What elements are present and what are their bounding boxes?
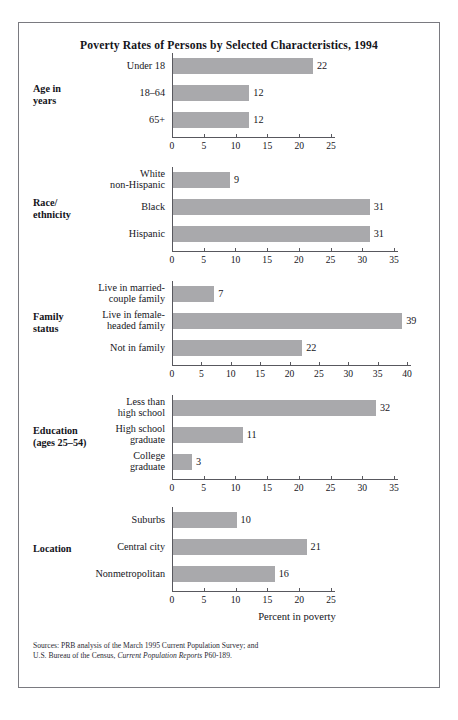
category-label: 65+ [29,114,165,126]
x-axis-tick [267,134,268,138]
x-axis-tick [299,134,300,138]
category-label: Nonmetropolitan [29,568,165,580]
bar-value-label: 9 [234,174,239,185]
category-label: Collegegraduate [29,450,165,473]
category-label: Live in female-headed family [29,309,165,332]
x-axis-tick-label: 0 [161,140,183,151]
bar-value-label: 7 [218,288,223,299]
x-axis-tick-label: 5 [193,140,215,151]
bar [173,512,237,528]
x-axis-tick [204,134,205,138]
bar-value-label: 32 [380,402,390,413]
x-axis-tick-label: 30 [337,368,359,379]
x-axis-tick-label: 10 [224,254,246,265]
bar [173,427,243,443]
figure-frame: Poverty Rates of Persons by Selected Cha… [18,22,440,688]
x-axis-line [172,479,398,480]
x-axis-tick [394,476,395,480]
x-axis-tick [260,362,261,366]
x-axis-tick [172,588,173,592]
x-axis-line [172,251,398,252]
category-label: Suburbs [29,514,165,526]
x-axis-tick-label: 0 [161,482,183,493]
category-label-line: couple family [29,293,165,305]
x-axis-tick-label: 5 [193,254,215,265]
x-axis-tick-label: 30 [351,254,373,265]
category-label-line: 18–64 [29,87,165,99]
x-axis-line [172,365,411,366]
x-axis-tick-label: 5 [193,594,215,605]
chart-title: Poverty Rates of Persons by Selected Cha… [19,39,439,52]
x-axis-tick-label: 15 [256,482,278,493]
x-axis-tick [204,248,205,252]
category-label-line: Under 18 [29,60,165,72]
x-axis-tick-label: 15 [249,368,271,379]
category-label-line: non-Hispanic [29,179,165,191]
x-axis-tick-label: 10 [220,368,242,379]
x-axis-tick [235,248,236,252]
sources-report-title: Current Population Reports [117,651,202,660]
x-axis-tick [348,362,349,366]
x-axis-tick [236,134,237,138]
x-axis-tick-label: 10 [225,140,247,151]
x-axis-tick-label: 10 [225,594,247,605]
category-label: Live in married-couple family [29,282,165,305]
x-axis-tick [267,588,268,592]
x-axis-tick [204,588,205,592]
x-axis-tick-label: 35 [367,368,389,379]
x-axis-tick [378,362,379,366]
x-axis-tick-label: 0 [161,254,183,265]
plot-area: 2212120510152025 [172,53,337,139]
bar [173,58,313,74]
x-axis-tick-label: 15 [256,140,278,151]
bar-value-label: 12 [253,114,263,125]
sources-line-2-pre: U.S. Bureau of the Census, [33,651,117,660]
bar-value-label: 31 [374,228,384,239]
category-label-line: high school [29,407,165,419]
category-label-line: College [29,450,165,462]
category-label-line: Black [29,201,165,213]
bar [173,112,249,128]
x-axis-tick [290,362,291,366]
category-label: Not in family [29,342,165,354]
category-label: Central city [29,541,165,553]
x-axis-tick [204,476,205,480]
x-axis-tick-label: 20 [288,594,310,605]
bar-value-label: 16 [279,568,289,579]
x-axis-tick [331,588,332,592]
x-axis-tick [172,362,173,366]
x-axis-tick-label: 5 [190,368,212,379]
x-axis-tick-label: 35 [383,254,405,265]
x-axis-tick [299,476,300,480]
x-axis-tick [319,362,320,366]
x-axis-tick [172,476,173,480]
bar [173,199,370,215]
category-label: Hispanic [29,228,165,240]
sources-note: Sources: PRB analysis of the March 1995 … [33,641,423,662]
category-label-line: Hispanic [29,228,165,240]
bar [173,226,370,242]
x-axis-tick [231,362,232,366]
category-label-line: Suburbs [29,514,165,526]
bar-value-label: 10 [241,514,251,525]
x-axis-tick-label: 35 [383,482,405,493]
x-axis-tick-label: 25 [320,254,342,265]
bar-value-label: 3 [196,456,201,467]
x-axis-tick-label: 15 [256,254,278,265]
category-label-line: Central city [29,541,165,553]
plot-area: 739220510152025303540 [172,281,413,367]
x-axis-tick [235,476,236,480]
bar [173,172,230,188]
bar [173,85,249,101]
category-label: Black [29,201,165,213]
x-axis-tick-label: 25 [308,368,330,379]
category-label: 18–64 [29,87,165,99]
category-label: Less thanhigh school [29,396,165,419]
category-label-line: White [29,168,165,180]
category-label: Under 18 [29,60,165,72]
category-label-line: Live in female- [29,309,165,321]
x-axis-tick-label: 25 [320,140,342,151]
category-label-line: Live in married- [29,282,165,294]
x-axis-line [172,137,335,138]
category-label: High schoolgraduate [29,423,165,446]
